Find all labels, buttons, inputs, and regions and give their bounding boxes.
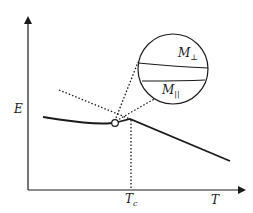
- energy-temperature-diagram: E T Tc M⊥ M||: [0, 0, 253, 213]
- critical-temperature-label: Tc: [125, 192, 138, 208]
- energy-curve-hump: [118, 119, 230, 161]
- inset-magnification: M⊥ M||: [138, 34, 208, 104]
- transition-point-marker: [112, 120, 119, 127]
- energy-curve: [43, 117, 112, 124]
- extrapolation-line: [59, 90, 130, 119]
- y-axis-label: E: [13, 102, 23, 116]
- x-axis-label: T: [211, 193, 220, 207]
